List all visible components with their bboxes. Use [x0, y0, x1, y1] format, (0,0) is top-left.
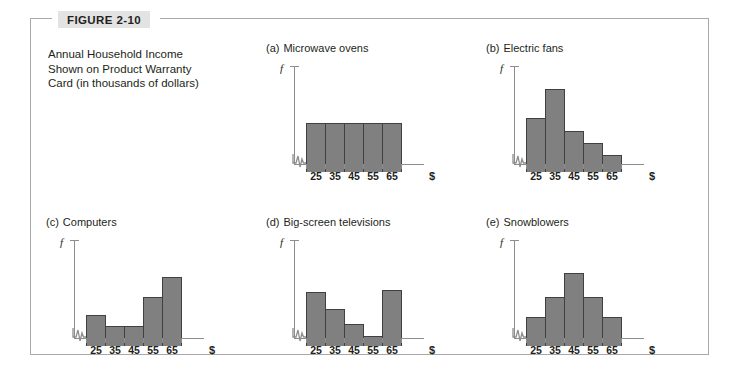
x-axis-tick — [105, 338, 106, 343]
x-axis-tick-label: 35 — [105, 344, 125, 356]
chart-plot-area-computers: f$2535455565 — [60, 234, 210, 346]
x-axis-tick — [306, 338, 307, 343]
bar — [564, 273, 584, 347]
x-axis-tick-label: 45 — [564, 170, 584, 182]
chart-panel-big-screen-televisions: (d)Big-screen televisionsf$2535455565 — [266, 216, 446, 356]
x-axis-tick — [344, 338, 345, 343]
chart-panel-electric-fans: (b)Electric fansf$2535455565 — [486, 42, 666, 182]
x-axis-ticks-snowblowers: 2535455565 — [526, 338, 626, 356]
chart-title-snowblowers: (e)Snowblowers — [486, 216, 569, 228]
chart-panel-letter-snowblowers: (e) — [486, 216, 499, 228]
x-axis-tick — [181, 338, 182, 343]
chart-title-microwave-ovens: (a)Microwave ovens — [266, 42, 368, 54]
y-axis-line-snowblowers — [514, 240, 515, 338]
chart-panel-letter-big-screen-televisions: (d) — [266, 216, 279, 228]
x-axis-unit-label-microwave-ovens: $ — [429, 170, 435, 182]
x-axis-tick-label: 25 — [526, 170, 546, 182]
bar — [545, 89, 565, 172]
x-axis-tick — [306, 164, 307, 169]
chart-plot-area-big-screen-televisions: f$2535455565 — [280, 234, 430, 346]
x-axis-tick-label: 45 — [564, 344, 584, 356]
x-axis-tick — [162, 338, 163, 343]
chart-title-electric-fans: (b)Electric fans — [486, 42, 563, 54]
chart-title-text-snowblowers: Snowblowers — [503, 216, 568, 228]
x-axis-tick — [526, 338, 527, 343]
x-axis-tick-label: 65 — [602, 170, 622, 182]
x-axis-tick-label: 35 — [325, 170, 345, 182]
x-axis-ticks-computers: 2535455565 — [86, 338, 186, 356]
x-axis-tick — [382, 338, 383, 343]
x-axis-tick — [602, 338, 603, 343]
figure-badge: FIGURE 2-10 — [58, 11, 150, 28]
x-axis-tick-label: 35 — [545, 344, 565, 356]
x-axis-tick-label: 55 — [583, 344, 603, 356]
x-axis-tick — [143, 338, 144, 343]
chart-title-big-screen-televisions: (d)Big-screen televisions — [266, 216, 390, 228]
x-axis-tick — [564, 164, 565, 169]
x-axis-tick-label: 25 — [526, 344, 546, 356]
x-axis-tick-label: 55 — [583, 170, 603, 182]
x-axis-tick-label: 55 — [143, 344, 163, 356]
x-axis-ticks-electric-fans: 2535455565 — [526, 164, 626, 182]
x-axis-tick — [124, 338, 125, 343]
chart-plot-area-snowblowers: f$2535455565 — [500, 234, 650, 346]
x-axis-tick-label: 25 — [306, 170, 326, 182]
x-axis-ticks-big-screen-televisions: 2535455565 — [306, 338, 406, 356]
x-axis-unit-label-big-screen-televisions: $ — [429, 344, 435, 356]
x-axis-tick — [325, 338, 326, 343]
x-axis-tick — [564, 338, 565, 343]
x-axis-tick — [325, 164, 326, 169]
x-axis-tick — [545, 164, 546, 169]
chart-title-text-big-screen-televisions: Big-screen televisions — [283, 216, 390, 228]
x-axis-tick — [363, 338, 364, 343]
x-axis-tick-label: 65 — [162, 344, 182, 356]
x-axis-unit-label-electric-fans: $ — [649, 170, 655, 182]
x-axis-tick — [602, 164, 603, 169]
x-axis-unit-label-snowblowers: $ — [649, 344, 655, 356]
chart-panel-letter-computers: (c) — [46, 216, 59, 228]
x-axis-tick — [86, 338, 87, 343]
bar-group-electric-fans — [526, 74, 626, 172]
y-axis-label-microwave-ovens: f — [280, 62, 283, 74]
x-axis-tick — [545, 338, 546, 343]
x-axis-tick-label: 25 — [306, 344, 326, 356]
bar-group-microwave-ovens — [306, 74, 406, 172]
bar-group-computers — [86, 248, 186, 346]
y-axis-label-snowblowers: f — [500, 236, 503, 248]
chart-panel-letter-microwave-ovens: (a) — [266, 42, 279, 54]
chart-plot-area-microwave-ovens: f$2535455565 — [280, 60, 430, 172]
x-axis-tick-label: 55 — [363, 344, 383, 356]
x-axis-tick — [526, 164, 527, 169]
x-axis-tick — [344, 164, 345, 169]
x-axis-tick-label: 35 — [545, 170, 565, 182]
chart-panel-computers: (c)Computersf$2535455565 — [46, 216, 226, 356]
x-axis-tick-label: 45 — [344, 170, 364, 182]
y-axis-label-electric-fans: f — [500, 62, 503, 74]
x-axis-tick-label: 65 — [382, 344, 402, 356]
bar-group-big-screen-televisions — [306, 248, 406, 346]
x-axis-tick — [363, 164, 364, 169]
x-axis-tick — [621, 164, 622, 169]
figure-caption-line-2: Shown on Product Warranty — [48, 62, 263, 77]
x-axis-unit-label-computers: $ — [209, 344, 215, 356]
chart-title-computers: (c)Computers — [46, 216, 117, 228]
bar-group-snowblowers — [526, 248, 626, 346]
x-axis-tick-label: 55 — [363, 170, 383, 182]
x-axis-tick — [583, 338, 584, 343]
figure-caption: Annual Household Income Shown on Product… — [48, 47, 263, 91]
figure-badge-label: FIGURE 2-10 — [67, 14, 141, 26]
x-axis-tick-label: 35 — [325, 344, 345, 356]
chart-panel-letter-electric-fans: (b) — [486, 42, 499, 54]
chart-panel-snowblowers: (e)Snowblowersf$2535455565 — [486, 216, 666, 356]
x-axis-tick-label: 25 — [86, 344, 106, 356]
figure-caption-line-1: Annual Household Income — [48, 47, 263, 62]
chart-panel-microwave-ovens: (a)Microwave ovensf$2535455565 — [266, 42, 446, 182]
x-axis-ticks-microwave-ovens: 2535455565 — [306, 164, 406, 182]
x-axis-tick — [382, 164, 383, 169]
y-axis-line-electric-fans — [514, 66, 515, 164]
chart-plot-area-electric-fans: f$2535455565 — [500, 60, 650, 172]
x-axis-tick-label: 45 — [124, 344, 144, 356]
chart-title-text-microwave-ovens: Microwave ovens — [283, 42, 368, 54]
figure-caption-line-3: Card (in thousands of dollars) — [48, 76, 263, 91]
chart-title-text-electric-fans: Electric fans — [503, 42, 563, 54]
